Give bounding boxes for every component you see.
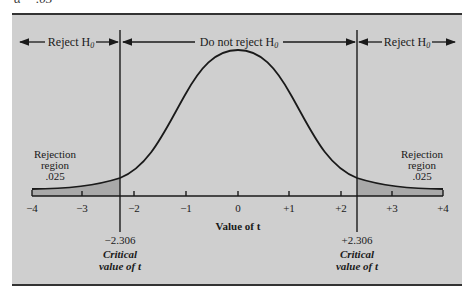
x-axis-label: Value of t (216, 220, 261, 232)
t-distribution-curve (32, 50, 443, 189)
svg-text:+2: +2 (335, 202, 347, 214)
svg-text:−3: −3 (76, 202, 88, 214)
reject-right-label: Reject H0 (384, 35, 430, 50)
critical-left-line1: Critical (103, 248, 138, 260)
svg-text:+4: +4 (437, 202, 449, 214)
critical-right-line1: Critical (340, 248, 375, 260)
x-tick-labels: −4 −3 −2 −1 0 +1 +2 +3 +4 (26, 202, 449, 214)
svg-text:0: 0 (235, 202, 241, 214)
svg-text:+1: +1 (283, 202, 295, 214)
svg-text:−2: −2 (128, 202, 140, 214)
rejection-right-line3: .025 (412, 170, 432, 182)
t-distribution-chart: Reject H0 Do not reject H0 Reject H0 Rej… (0, 0, 469, 294)
svg-text:+3: +3 (386, 202, 398, 214)
reject-left-label: Reject H0 (48, 35, 94, 50)
svg-text:−4: −4 (26, 202, 38, 214)
critical-right-value: +2.306 (342, 234, 373, 246)
rejection-left-line3: .025 (45, 170, 65, 182)
do-not-reject-label: Do not reject H0 (200, 35, 278, 50)
critical-left-line2: value of t (99, 260, 142, 272)
critical-left-value: −2.306 (105, 234, 136, 246)
critical-right-line2: value of t (336, 260, 379, 272)
svg-text:−1: −1 (180, 202, 192, 214)
